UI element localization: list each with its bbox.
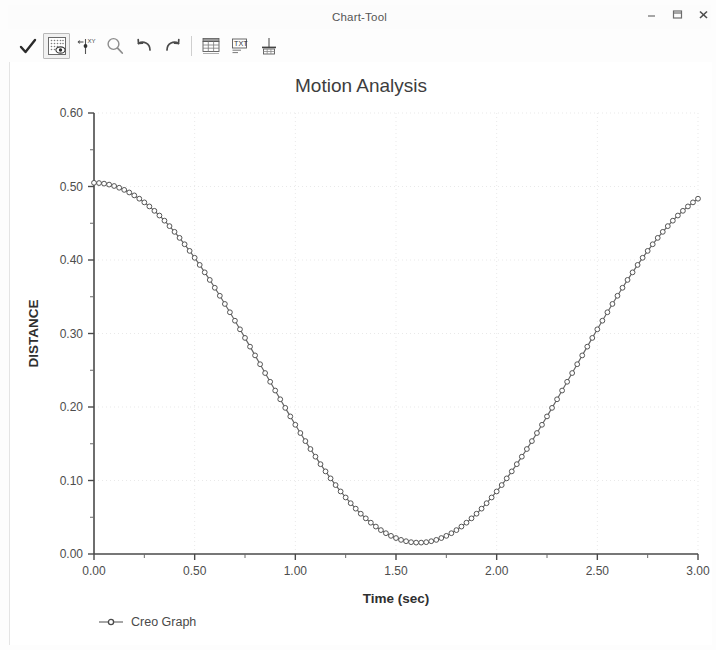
toolbar: XY xyxy=(9,31,709,61)
title-bar: Chart-Tool xyxy=(8,5,711,29)
svg-text:0.30: 0.30 xyxy=(60,327,84,341)
legend-marker-icon xyxy=(98,616,124,628)
data-series[interactable] xyxy=(92,180,701,545)
window-title: Chart-Tool xyxy=(332,11,387,23)
point-marker-icon[interactable]: XY xyxy=(72,33,99,59)
svg-text:1.00: 1.00 xyxy=(284,564,308,578)
svg-text:0.50: 0.50 xyxy=(60,180,84,194)
svg-text:0.10: 0.10 xyxy=(60,474,84,488)
export-grid-icon[interactable] xyxy=(255,33,282,59)
accept-check-icon[interactable] xyxy=(14,33,41,59)
svg-text:XY: XY xyxy=(87,38,95,44)
svg-text:2.00: 2.00 xyxy=(485,564,509,578)
svg-text:3.00: 3.00 xyxy=(686,564,710,578)
axis-ticks xyxy=(88,113,698,560)
svg-text:0.00: 0.00 xyxy=(60,547,84,561)
toolbar-separator xyxy=(191,36,192,56)
maximize-button[interactable] xyxy=(671,8,684,21)
plot-svg[interactable]: 0.000.501.001.502.002.503.000.000.100.20… xyxy=(10,62,712,645)
legend[interactable]: Creo Graph xyxy=(98,615,196,629)
svg-text:0.00: 0.00 xyxy=(82,564,106,578)
chart-canvas: Motion Analysis 0.000.501.001.502.002.50… xyxy=(9,62,712,645)
chart-tool-window: Chart-Tool xyxy=(0,0,716,650)
svg-text:0.50: 0.50 xyxy=(183,564,207,578)
undo-icon[interactable] xyxy=(130,33,157,59)
window-controls xyxy=(645,8,710,21)
table-icon[interactable] xyxy=(197,33,224,59)
svg-text:0.40: 0.40 xyxy=(60,253,84,267)
gridlines xyxy=(94,113,698,554)
text-table-icon[interactable]: TXT xyxy=(226,33,253,59)
legend-label: Creo Graph xyxy=(131,615,196,629)
graph-display-icon[interactable] xyxy=(43,33,70,59)
zoom-magnifier-icon[interactable] xyxy=(101,33,128,59)
svg-text:2.50: 2.50 xyxy=(586,564,610,578)
x-axis-label: Time (sec) xyxy=(363,591,430,606)
svg-text:1.50: 1.50 xyxy=(384,564,408,578)
svg-text:0.60: 0.60 xyxy=(60,106,84,120)
redo-icon[interactable] xyxy=(159,33,186,59)
svg-text:TXT: TXT xyxy=(234,39,248,48)
close-button[interactable] xyxy=(697,8,710,21)
svg-text:0.20: 0.20 xyxy=(60,400,84,414)
y-axis-label: DISTANCE xyxy=(26,299,41,367)
axis-tick-labels: 0.000.501.001.502.002.503.000.000.100.20… xyxy=(60,106,710,578)
minimize-button[interactable] xyxy=(645,8,658,21)
